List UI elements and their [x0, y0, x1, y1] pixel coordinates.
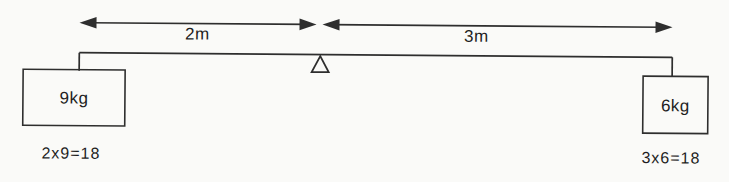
arrowhead-right-icon [655, 21, 672, 33]
lever-balance-diagram: 2m 3m 9kg 6kg [0, 0, 729, 182]
moment-equation-right: 3x6=18 [641, 149, 700, 166]
scan-skew-group: 2m 3m 9kg 6kg [22, 16, 708, 166]
fulcrum-triangle-icon [312, 56, 329, 72]
arrowhead-right-icon [299, 19, 316, 31]
distance-label-left: 2m [185, 25, 210, 44]
beam-line [79, 53, 672, 58]
weight-box-right: 6kg [643, 76, 708, 134]
diagram-svg: 2m 3m 9kg 6kg [0, 0, 729, 182]
dimension-arrow-right-shaft [332, 25, 664, 28]
arrowhead-left-icon [79, 17, 96, 29]
arrowhead-left-icon [322, 19, 339, 31]
moment-equation-left: 2x9=18 [41, 144, 100, 161]
weight-box-left: 9kg [23, 69, 125, 126]
weight-label-right: 6kg [661, 96, 690, 115]
weight-label-left: 9kg [59, 89, 88, 108]
dimension-arrow-right [322, 19, 672, 33]
distance-label-right: 3m [464, 27, 489, 46]
